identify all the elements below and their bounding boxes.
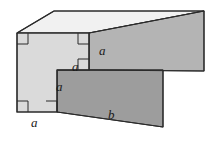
geometry-figure: a a a a b [0, 0, 218, 142]
label-a-step-left: a [56, 80, 63, 93]
label-a-step-top: a [72, 60, 79, 73]
label-b-bottom-edge: b [108, 108, 115, 121]
label-a-bottom-front: a [31, 116, 38, 129]
label-a-upper-right: a [99, 44, 106, 57]
